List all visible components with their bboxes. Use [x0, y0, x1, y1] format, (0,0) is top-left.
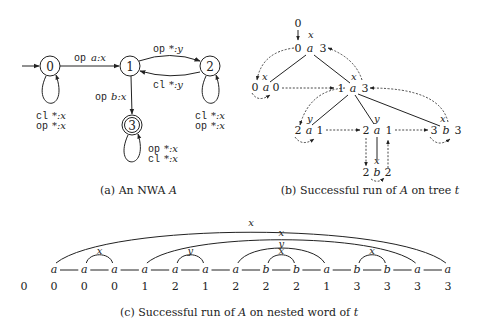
svg-text:0: 0: [21, 280, 28, 293]
word-state: 3: [414, 280, 421, 293]
svg-text:2: 2: [206, 60, 214, 74]
tree-run: 0 x 0 a 3 x 0 a 0 x 1 a 3 y 2 a 1: [252, 17, 462, 197]
svg-text:b:x: b:x: [111, 91, 127, 102]
svg-text:x: x: [308, 29, 314, 40]
svg-text:2: 2: [363, 166, 370, 179]
svg-text:3: 3: [455, 124, 462, 137]
word-letter: a: [414, 263, 421, 276]
svg-text:x: x: [248, 217, 254, 228]
svg-text:2: 2: [363, 124, 370, 137]
figure-canvas: 0 1 2 3 op a:x op *:y cl *:y op: [0, 0, 478, 334]
word-state: 0: [51, 280, 58, 293]
word-state: 0: [111, 280, 118, 293]
state-3-accepting: 3: [122, 115, 142, 135]
svg-text:op: op: [95, 92, 107, 103]
svg-text:*:y: *:y: [169, 43, 183, 54]
nested-word-run: 0 (c) Successful run of A on nested word…: [21, 217, 452, 319]
svg-text:a: a: [307, 42, 314, 55]
tree-node-root: 0 a 3: [295, 42, 327, 55]
svg-text:*:x: *:x: [52, 120, 66, 131]
word-state: 2: [232, 280, 239, 293]
word-state: 3: [354, 280, 361, 293]
nesting-arc: [56, 232, 446, 263]
svg-text:op: op: [195, 121, 207, 132]
svg-text:a: a: [350, 82, 357, 95]
svg-text:0: 0: [46, 60, 54, 74]
svg-text:3: 3: [362, 82, 369, 95]
svg-text:0: 0: [295, 42, 302, 55]
svg-text:op: op: [153, 44, 165, 55]
caption-b: (b) Successful run of A on tree t: [281, 184, 460, 197]
svg-text:x: x: [278, 227, 284, 238]
svg-text:y: y: [187, 245, 194, 256]
transition-2-1: [140, 71, 200, 76]
caption-a: (a) An NWA A: [100, 184, 177, 197]
word-state: 1: [202, 280, 209, 293]
svg-text:op: op: [74, 53, 86, 64]
state-1: 1: [120, 56, 140, 76]
svg-text:y: y: [306, 113, 313, 124]
svg-text:3: 3: [128, 119, 136, 133]
svg-text:a: a: [306, 124, 313, 137]
word-letter: a: [51, 263, 58, 276]
word-letter: b: [384, 263, 391, 276]
word-state: 3: [444, 280, 451, 293]
tree-node-rr: x 3 b 3: [431, 113, 462, 137]
self-loop-3: [124, 134, 140, 162]
svg-text:0: 0: [295, 17, 302, 30]
svg-text:b: b: [373, 166, 380, 179]
svg-text:op: op: [36, 121, 48, 132]
word-letter: a: [202, 263, 209, 276]
svg-text:1: 1: [386, 124, 393, 137]
word-letter: a: [445, 263, 452, 276]
svg-text:0: 0: [273, 81, 280, 94]
word-letter: b: [353, 263, 360, 276]
svg-text:b: b: [442, 124, 449, 137]
state-0: 0: [40, 56, 60, 76]
tree-node-rl: y 2 a 1: [295, 113, 324, 137]
svg-text:cl: cl: [153, 80, 165, 91]
svg-text:*:x: *:x: [211, 120, 225, 131]
caption-c: (c) Successful run of A on nested word o…: [120, 306, 359, 319]
svg-text:y: y: [373, 113, 380, 124]
transition-1-2: [139, 56, 200, 62]
word-state: 2: [293, 280, 300, 293]
tree-node-left: x 0 a 0: [252, 71, 280, 94]
word-letter: a: [323, 263, 330, 276]
svg-text:3: 3: [320, 42, 327, 55]
word-letter: a: [111, 263, 118, 276]
state-2: 2: [200, 56, 220, 76]
tree-node-right: x 1 a 3: [338, 71, 369, 95]
loop-label-2: cl *:x op *:x: [195, 110, 225, 132]
loop-label-0: cl *:x op *:x: [36, 110, 66, 132]
svg-text:cl: cl: [148, 154, 160, 165]
svg-text:a: a: [263, 81, 270, 94]
word-letter: a: [142, 263, 149, 276]
self-loop-2: [202, 75, 219, 103]
tree-node-rm: y 2 a 1: [363, 113, 393, 137]
word-letter: a: [233, 263, 240, 276]
word-letter: a: [81, 263, 88, 276]
svg-text:*:x: *:x: [164, 153, 178, 164]
word-letter: b: [293, 263, 300, 276]
svg-text:x: x: [97, 245, 103, 256]
svg-text:x: x: [369, 245, 375, 256]
word-state: 1: [141, 280, 148, 293]
word-state: 3: [384, 280, 391, 293]
word-letter: a: [172, 263, 179, 276]
transition-1-3: [131, 76, 132, 114]
svg-text:a:x: a:x: [91, 52, 106, 63]
svg-text:2: 2: [295, 124, 302, 137]
svg-text:3: 3: [431, 124, 438, 137]
word-state: 2: [172, 280, 179, 293]
nwa-automaton: 0 1 2 3 op a:x op *:y cl *:y op: [22, 43, 225, 197]
word-state: 2: [263, 280, 270, 293]
word-state: 1: [323, 280, 330, 293]
self-loop-0: [42, 75, 59, 103]
svg-text:*:y: *:y: [169, 79, 183, 90]
loop-label-3: op *:x cl *:x: [148, 143, 178, 165]
word-letter: b: [263, 263, 270, 276]
svg-text:x: x: [351, 71, 357, 82]
svg-text:x: x: [278, 245, 284, 256]
svg-text:a: a: [374, 124, 381, 137]
